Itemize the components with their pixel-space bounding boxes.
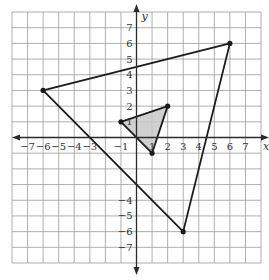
y-axis-label: y [141,10,149,23]
x-axis-arrow-left-icon [12,135,20,141]
vertex-point [118,119,123,124]
x-tick-label: 3 [180,141,186,152]
y-tick-label: 3 [126,85,132,96]
vertex-point [227,41,232,46]
vertex-point [165,104,170,109]
vertex-point [41,88,46,93]
x-tick-label: −1 [114,141,129,152]
x-tick-label: −5 [51,141,66,152]
coordinate-plane: −7−6−5−4−3−112345677654321−4−5−6−7 x y [0,0,269,280]
y-tick-label: −7 [118,242,133,253]
y-axis-arrow-down-icon [134,267,140,275]
y-tick-label: 2 [126,101,132,112]
x-axis-label: x [263,140,269,153]
vertex-point [181,229,186,234]
x-tick-label: 2 [164,141,170,152]
x-tick-label: 7 [242,141,248,152]
x-tick-label: −4 [67,141,82,152]
y-axis-arrow-up-icon [134,4,140,12]
x-tick-label: 4 [196,141,202,152]
x-tick-label: 6 [227,141,233,152]
y-tick-label: −5 [118,210,133,221]
y-tick-label: 6 [126,38,132,49]
y-tick-label: −6 [118,226,133,237]
y-tick-label: 4 [126,69,132,80]
x-tick-label: −3 [82,141,97,152]
x-tick-label: −6 [36,141,51,152]
y-tick-label: −4 [118,195,133,206]
x-tick-label: −7 [20,141,35,152]
x-tick-label: 1 [149,141,155,152]
y-tick-label: 1 [126,116,132,127]
x-tick-label: 5 [211,141,217,152]
y-tick-label: 5 [126,54,132,65]
y-tick-label: 7 [126,22,132,33]
